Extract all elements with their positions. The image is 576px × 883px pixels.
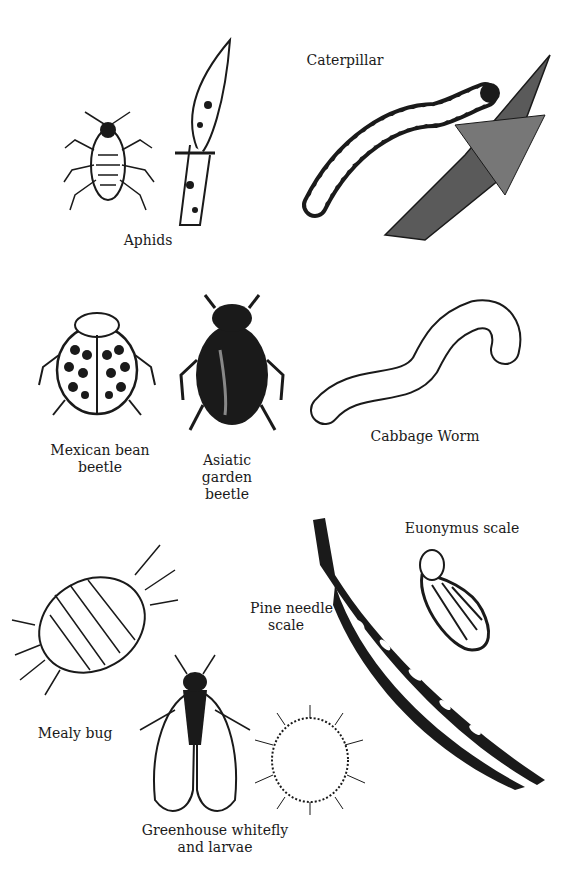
label-asiatic-line2: garden bbox=[192, 469, 262, 486]
cabbage-worm-illustration bbox=[315, 305, 520, 425]
label-whitefly-line2: and larvae bbox=[135, 839, 295, 856]
label-mexican-bean-beetle: Mexican bean beetle bbox=[40, 442, 160, 476]
greenhouse-whitefly-illustration bbox=[135, 650, 255, 820]
label-asiatic-garden-beetle: Asiatic garden beetle bbox=[192, 452, 262, 503]
label-mexican-bean-beetle-line1: Mexican bean bbox=[40, 442, 160, 459]
pest-illustration-page: Aphids Caterpillar Mexican bean beetle bbox=[0, 0, 576, 883]
whitefly-larva-illustration bbox=[255, 705, 365, 815]
aphid-bud-illustration bbox=[160, 35, 250, 230]
label-asiatic-line1: Asiatic bbox=[192, 452, 262, 469]
label-aphids: Aphids bbox=[108, 232, 188, 249]
label-greenhouse-whitefly: Greenhouse whitefly and larvae bbox=[135, 822, 295, 856]
asiatic-garden-beetle-illustration bbox=[175, 290, 290, 440]
aphid-illustration bbox=[60, 110, 160, 220]
label-mealy-bug: Mealy bug bbox=[30, 725, 120, 742]
label-asiatic-line3: beetle bbox=[192, 486, 262, 503]
caterpillar-illustration bbox=[305, 55, 555, 240]
label-cabbage-worm: Cabbage Worm bbox=[365, 428, 485, 445]
label-whitefly-line1: Greenhouse whitefly bbox=[135, 822, 295, 839]
mexican-bean-beetle-illustration bbox=[35, 295, 160, 425]
label-mexican-bean-beetle-line2: beetle bbox=[40, 459, 160, 476]
